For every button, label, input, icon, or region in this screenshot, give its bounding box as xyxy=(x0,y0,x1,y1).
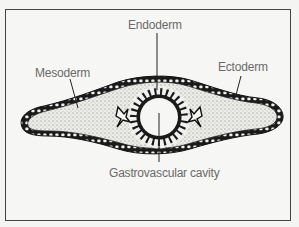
label-ectoderm: Ectoderm xyxy=(218,60,268,74)
label-mesoderm: Mesoderm xyxy=(35,66,90,80)
ectoderm-leader-line xyxy=(236,76,241,95)
label-endoderm: Endoderm xyxy=(128,18,182,32)
flatworm-cross-section-diagram: Endoderm Mesoderm Ectoderm Gastrovascula… xyxy=(0,0,299,227)
label-gastrovascular-cavity: Gastrovascular cavity xyxy=(109,166,220,180)
